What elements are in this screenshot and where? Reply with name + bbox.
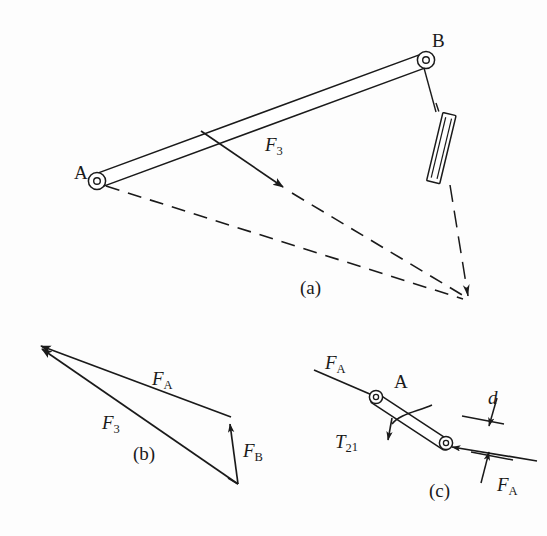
engineering-figure bbox=[0, 0, 547, 536]
vector-fb bbox=[230, 424, 238, 484]
point-a-label-panel-a-text: A bbox=[74, 162, 88, 183]
caption-b: (b) bbox=[133, 443, 155, 465]
force-fb-label-panel-b: FB bbox=[243, 440, 263, 465]
caption-a-text: (a) bbox=[300, 277, 321, 298]
construction-line-a-to-ic-dashed bbox=[106, 186, 463, 299]
panel-a-mechanism bbox=[88, 51, 468, 299]
force-f3-label-panel-a-subscript: 3 bbox=[277, 144, 283, 158]
point-a-label-panel-c-text: A bbox=[394, 371, 408, 392]
torque-t21-label-panel-c-subscript-2: 1 bbox=[352, 440, 358, 454]
torque-t21-label-panel-c: T21 bbox=[335, 431, 358, 456]
force-fa-label-panel-c-upper: FA bbox=[325, 352, 346, 377]
panel-c-free-body bbox=[314, 370, 537, 483]
pivot-a bbox=[88, 172, 105, 189]
slider-block bbox=[427, 112, 456, 183]
dimension-arrow-up bbox=[481, 452, 489, 483]
caption-c-text: (c) bbox=[429, 480, 450, 501]
force-fa-label-panel-b-subscript: A bbox=[164, 378, 173, 392]
vector-fa bbox=[41, 346, 231, 417]
force-fa-label-panel-c-lower-subscript: A bbox=[509, 484, 518, 498]
force-fa-label-panel-c-upper-subscript: A bbox=[337, 362, 346, 376]
force-f3-label-panel-a: F3 bbox=[265, 134, 283, 159]
torque-t21-label-panel-c-text: T bbox=[335, 431, 346, 452]
dimension-d-label-panel-c-text: d bbox=[488, 387, 498, 408]
force-f3-label-panel-b-subscript: 3 bbox=[114, 422, 120, 436]
force-fb-label-panel-b-subscript: B bbox=[255, 450, 263, 464]
caption-a: (a) bbox=[300, 277, 321, 299]
force-fa-label-panel-c-upper-text: F bbox=[325, 352, 337, 373]
point-b-label-panel-a: B bbox=[432, 30, 445, 52]
connecting-rod-b-to-slider bbox=[424, 68, 436, 112]
point-b-label-panel-a-text: B bbox=[432, 30, 445, 51]
link-ab bbox=[92, 52, 432, 188]
point-a-label-panel-c: A bbox=[394, 371, 408, 393]
force-fa-label-panel-c-lower-text: F bbox=[497, 474, 509, 495]
dimension-d-label-panel-c: d bbox=[488, 387, 498, 409]
force-line-fa-lower bbox=[452, 447, 537, 461]
force-fa-label-panel-b: FA bbox=[152, 368, 173, 393]
force-f3-label-panel-a-text: F bbox=[265, 134, 277, 155]
pivot-a-panel-c bbox=[369, 390, 382, 403]
force-f3-label-panel-b-text: F bbox=[102, 412, 114, 433]
pivot-lower-panel-c bbox=[439, 436, 452, 449]
force-fb-label-panel-b-text: F bbox=[243, 440, 255, 461]
torque-t21-label-panel-c-subscript: 2 bbox=[346, 441, 352, 455]
force-fa-label-panel-c-lower: FA bbox=[497, 474, 518, 499]
caption-b-text: (b) bbox=[133, 443, 155, 464]
dimension-tick-upper bbox=[462, 416, 504, 424]
dimension-d bbox=[462, 398, 513, 483]
caption-c: (c) bbox=[429, 480, 450, 502]
force-f3-label-panel-b: F3 bbox=[102, 412, 120, 437]
force-fa-label-panel-b-text: F bbox=[152, 368, 164, 389]
point-a-label-panel-a: A bbox=[74, 162, 88, 184]
pivot-b bbox=[417, 51, 434, 68]
